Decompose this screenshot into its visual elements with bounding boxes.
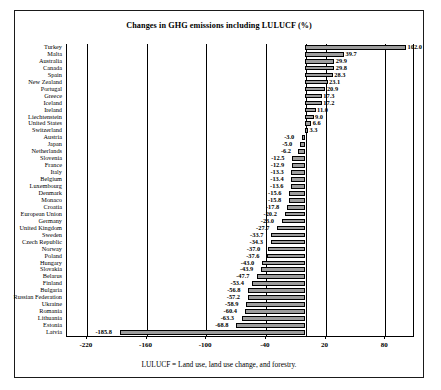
figure-caption: LULUCF = Land use, land use change, and … (14, 360, 424, 370)
bar (302, 135, 305, 140)
bar-row: Belgium-13.4 (0, 176, 441, 183)
bar (291, 177, 304, 182)
bar (120, 330, 305, 335)
bar-rows: Turkey102.0Malta39.7Australia29.9Canada2… (0, 44, 441, 336)
bar (305, 94, 322, 99)
bar (246, 302, 305, 307)
bar-row: Denmark-15.6 (0, 190, 441, 197)
chart-title: Changes in GHG emissions including LULUC… (14, 20, 424, 31)
tick-mark (205, 336, 206, 339)
bar (305, 80, 328, 85)
x-axis-line (66, 336, 414, 337)
bar-row: Iceland17.2 (0, 100, 441, 107)
bar (305, 115, 314, 120)
bar (248, 288, 304, 293)
bar-row: United States6.6 (0, 120, 441, 127)
bar (248, 295, 305, 300)
bar-row: Slovenia-12.5 (0, 155, 441, 162)
bar-row: Bulgaria-56.8 (0, 287, 441, 294)
bar-row: United Kingdom-27.7 (0, 225, 441, 232)
bar (298, 149, 304, 154)
category-label: Latvia (0, 329, 62, 336)
bar-row: Ukraine-58.9 (0, 301, 441, 308)
bar-row: Netherlands-6.2 (0, 148, 441, 155)
bar (292, 156, 304, 161)
bar (262, 261, 305, 266)
x-tick-label: 20 (305, 341, 345, 350)
bar-row: Ireland11.0 (0, 107, 441, 114)
bar (236, 323, 304, 328)
x-tick-label: -100 (185, 341, 225, 350)
bar (291, 170, 304, 175)
bar-row: Russian Federation-57.2 (0, 294, 441, 301)
bar-row: Germany-23.0 (0, 218, 441, 225)
bar (289, 198, 305, 203)
bar-row: Croatia-17.8 (0, 204, 441, 211)
bar-row: Austria-3.0 (0, 134, 441, 141)
bar (305, 87, 326, 92)
bar-row: New Zealand23.1 (0, 79, 441, 86)
bar (287, 205, 305, 210)
bar (305, 128, 308, 133)
bar (292, 163, 305, 168)
bar (271, 233, 305, 238)
bar-row: Malta39.7 (0, 51, 441, 58)
value-label: 3.3 (309, 127, 317, 134)
scan-edge-bottom (0, 384, 441, 390)
value-label: 39.7 (346, 51, 357, 58)
bar-row: Belarus-47.7 (0, 273, 441, 280)
value-label: -185.8 (95, 329, 112, 336)
bar (277, 226, 305, 231)
bar-row: Czech Republic-34.3 (0, 239, 441, 246)
bar (305, 59, 335, 64)
x-tick-label: -220 (66, 341, 106, 350)
bar-row: Monaco-15.8 (0, 197, 441, 204)
value-label: 102.0 (408, 44, 422, 51)
tick-mark (146, 336, 147, 339)
bar (305, 45, 406, 50)
bar-row: Australia29.9 (0, 58, 441, 65)
bar-row: Portugal20.9 (0, 86, 441, 93)
bar (261, 267, 305, 272)
bar (257, 274, 304, 279)
value-label: -68.8 (215, 322, 228, 329)
tick-mark (325, 336, 326, 339)
bar-row: Switzerland3.3 (0, 127, 441, 134)
bar (300, 142, 305, 147)
bar (289, 191, 305, 196)
figure-container: Changes in GHG emissions including LULUC… (0, 0, 441, 390)
bar (252, 281, 305, 286)
bar (305, 73, 333, 78)
bar (305, 52, 344, 57)
bar-row: Turkey102.0 (0, 44, 441, 51)
tick-mark (86, 336, 87, 339)
bar-row: Sweden-33.7 (0, 232, 441, 239)
bar-row: Japan-5.0 (0, 141, 441, 148)
bar-row: Latvia-185.8 (0, 329, 441, 336)
bar-row: Estonia-68.8 (0, 322, 441, 329)
scan-edge-top (0, 0, 441, 6)
bar (271, 240, 305, 245)
x-tick-label: 80 (364, 341, 404, 350)
bar-row: European Union-20.2 (0, 211, 441, 218)
bar-row: Greece17.3 (0, 93, 441, 100)
bar (245, 309, 305, 314)
bar (291, 184, 305, 189)
bar-row: Finland-53.4 (0, 280, 441, 287)
bar (285, 212, 305, 217)
bar (282, 219, 305, 224)
bar-row: Luxembourg-13.6 (0, 183, 441, 190)
bar (305, 121, 312, 126)
bar-row: Poland-37.6 (0, 253, 441, 260)
bar (267, 254, 304, 259)
bar-row: Spain28.3 (0, 72, 441, 79)
bar (305, 108, 316, 113)
bar (242, 316, 305, 321)
bar-row: Canada29.8 (0, 65, 441, 72)
tick-mark (265, 336, 266, 339)
bar-row: Italy-13.3 (0, 169, 441, 176)
tick-mark (384, 336, 385, 339)
bar (268, 247, 305, 252)
bar-row: Hungary-43.0 (0, 260, 441, 267)
bar-row: France-12.9 (0, 162, 441, 169)
